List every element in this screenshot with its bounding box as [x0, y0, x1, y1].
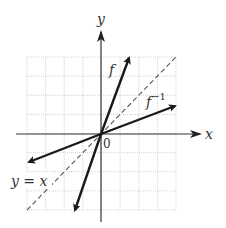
origin-label: 0	[103, 137, 111, 151]
f-line	[101, 58, 129, 134]
f-inverse-line-lower	[29, 134, 101, 162]
f-inverse-superscript: −1	[151, 91, 166, 102]
identity-label: y = x	[10, 173, 48, 189]
x-axis-label: x	[205, 126, 213, 142]
function-inverse-graph: y x 0 f f−1 y = x	[0, 0, 226, 228]
f-inverse-label: f−1	[145, 91, 166, 110]
y-axis-label: y	[96, 11, 106, 27]
f-inverse-line	[101, 106, 175, 134]
f-label: f	[108, 62, 117, 78]
